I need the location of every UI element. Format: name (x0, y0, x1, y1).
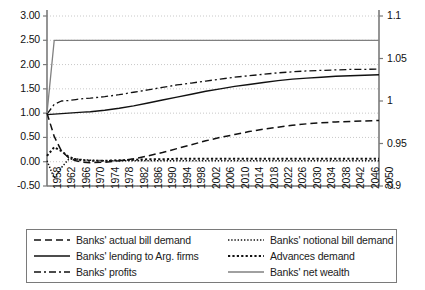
x-axis-tick-label: 1962 (65, 167, 77, 189)
y-axis-left-tick-label: 2.50 (0, 33, 40, 45)
x-axis-tick-label: 2002 (210, 167, 222, 189)
y-axis-left-tick-label: 2.00 (0, 58, 40, 70)
legend-item[interactable]: Banks' profits (27, 267, 223, 278)
legend-line-sample (227, 235, 265, 245)
legend-line-sample (227, 251, 265, 261)
series-line-2 (47, 75, 379, 115)
y-axis-left-tick-label: 1.00 (0, 106, 40, 118)
legend-item-label: Banks' profits (76, 267, 137, 278)
x-axis-tick-label: 2046 (369, 167, 381, 189)
y-axis-left-tick-label: 0.50 (0, 130, 40, 142)
x-axis-tick-label: 2026 (296, 167, 308, 189)
y-axis-left-tick-label: 3.00 (0, 9, 40, 21)
legend-item[interactable]: Banks' net wealth (223, 267, 398, 278)
legend-item-label: Advances demand (270, 251, 355, 262)
x-axis-tick-label: 1982 (138, 167, 150, 189)
y-axis-left-tick-label: 0.00 (0, 155, 40, 167)
series-line-3 (47, 147, 379, 161)
x-axis-tick-label: 2050 (383, 167, 395, 189)
y-axis-right-tick-label: 1 (387, 94, 421, 106)
x-axis-tick-label: 1986 (152, 167, 164, 189)
chart-figure: 3.002.502.001.501.000.500.00-0.50 1.11.0… (0, 0, 425, 290)
legend-item[interactable]: Banks' actual bill demand (27, 235, 223, 246)
x-axis-tick-label: 2010 (239, 167, 251, 189)
x-axis-tick-label: 2038 (340, 167, 352, 189)
chart-canvas (0, 0, 425, 225)
x-axis-tick-label: 1958 (51, 167, 63, 189)
y-axis-left-tick-label: 1.50 (0, 82, 40, 94)
x-axis-tick-label: 1978 (123, 167, 135, 189)
x-axis-tick-label: 1998 (195, 167, 207, 189)
series-line-4 (47, 69, 379, 114)
x-axis-tick-label: 2022 (282, 167, 294, 189)
y-axis-right-tick-label: 1.05 (387, 52, 421, 64)
x-axis-tick-label: 1974 (109, 167, 121, 189)
x-axis-tick-label: 2014 (253, 167, 265, 189)
legend-line-sample (33, 251, 71, 261)
legend-line-sample (227, 267, 265, 277)
legend-item[interactable]: Advances demand (223, 251, 398, 262)
legend-line-sample (33, 235, 71, 245)
plot-area: 3.002.502.001.501.000.500.00-0.50 1.11.0… (0, 0, 425, 225)
legend-line-sample (33, 267, 71, 277)
x-axis-tick-label: 2042 (354, 167, 366, 189)
x-axis-tick-label: 2030 (311, 167, 323, 189)
legend-item-label: Banks' actual bill demand (76, 235, 191, 246)
x-axis-tick-label: 1970 (94, 167, 106, 189)
y-axis-right-tick-label: 1.1 (387, 9, 421, 21)
x-axis-tick-label: 2006 (224, 167, 236, 189)
legend-item[interactable]: Banks' lending to Arg. firms (27, 251, 223, 262)
x-axis-tick-label: 1994 (181, 167, 193, 189)
chart-legend: Banks' actual bill demandBanks' notional… (26, 229, 397, 283)
legend-item-label: Banks' notional bill demand (270, 235, 393, 246)
x-axis-tick-label: 1966 (80, 167, 92, 189)
legend-item-label: Banks' lending to Arg. firms (76, 251, 199, 262)
y-axis-left-tick-label: -0.50 (0, 179, 40, 191)
x-axis-tick-label: 2034 (325, 167, 337, 189)
legend-item[interactable]: Banks' notional bill demand (223, 235, 398, 246)
x-axis-tick-label: 2018 (268, 167, 280, 189)
legend-item-label: Banks' net wealth (270, 267, 349, 278)
x-axis-tick-label: 1990 (166, 167, 178, 189)
y-axis-right-tick-label: 0.95 (387, 137, 421, 149)
